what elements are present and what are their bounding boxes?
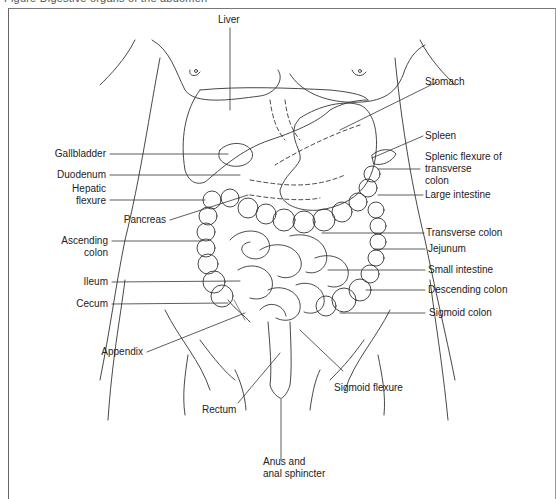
rectum-outline <box>268 322 291 460</box>
gallbladder-outline <box>219 143 253 166</box>
label-splenic-flexure-line2: transverse <box>425 163 472 175</box>
label-small-intestine: Small intestine <box>428 264 493 276</box>
colon-outline <box>197 166 386 316</box>
label-transverse-colon: Transverse colon <box>426 227 502 239</box>
torso-outline <box>100 40 455 420</box>
label-hepatic-flexure-line2: flexure <box>40 195 106 207</box>
label-sigmoid-flexure: Sigmoid flexure <box>334 382 403 394</box>
label-descending-colon: Descending colon <box>428 284 508 296</box>
label-pancreas: Pancreas <box>100 214 166 226</box>
label-cecum: Cecum <box>40 298 108 310</box>
label-spleen: Spleen <box>425 130 456 142</box>
label-jejunum: Jejunum <box>428 243 466 255</box>
label-gallbladder: Gallbladder <box>40 148 106 160</box>
label-splenic-flexure-line3: colon <box>425 175 449 187</box>
label-hepatic-flexure-line1: Hepatic <box>40 183 106 195</box>
label-ascending-colon-line2: colon <box>40 247 108 259</box>
small-intestine-outline <box>228 231 348 322</box>
label-duodenum: Duodenum <box>40 169 106 181</box>
label-ileum: Ileum <box>40 276 108 288</box>
label-appendix: Appendix <box>80 346 143 358</box>
label-anus-line1: Anus and <box>263 456 305 468</box>
liver-outline <box>183 88 368 184</box>
label-sigmoid-colon: Sigmoid colon <box>429 307 492 319</box>
label-rectum: Rectum <box>202 404 236 416</box>
stomach-outline <box>250 100 377 210</box>
label-large-intestine: Large intestine <box>425 189 491 201</box>
label-anus-line2: anal sphincter <box>263 468 325 480</box>
label-splenic-flexure-line1: Splenic flexure of <box>425 151 502 163</box>
label-ascending-colon-line1: Ascending <box>40 235 108 247</box>
label-liver: Liver <box>218 14 240 26</box>
label-stomach: Stomach <box>425 76 464 88</box>
